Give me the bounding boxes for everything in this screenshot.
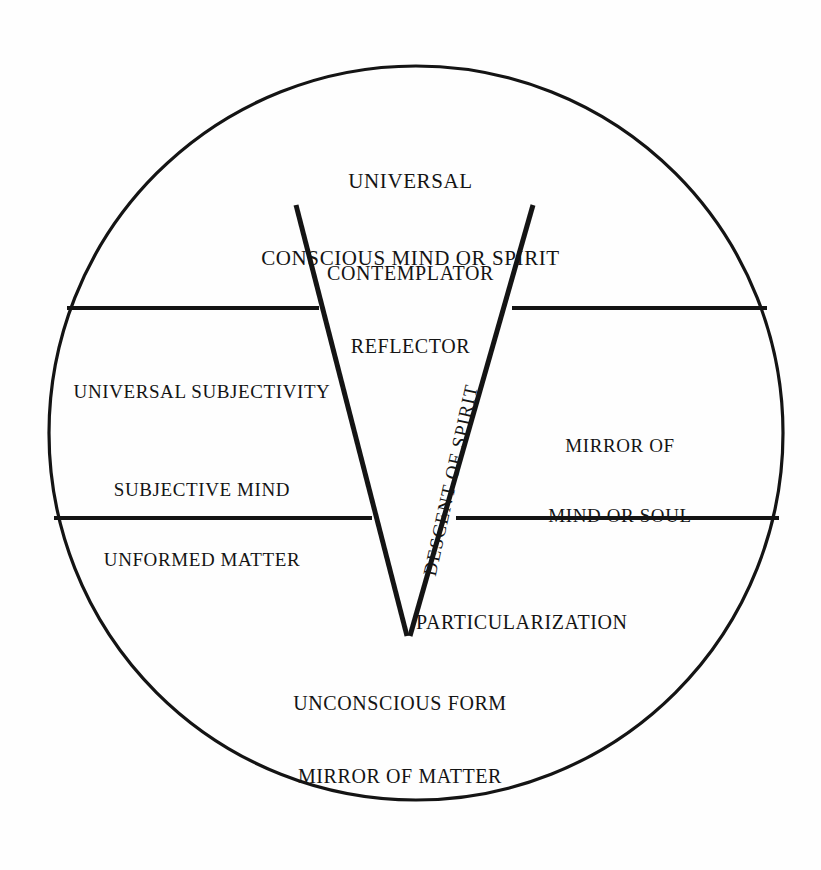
label-unformed-matter-line2: UNFORMED MATTER	[52, 548, 352, 571]
label-universal-subjectivity: UNIVERSAL SUBJECTIVITY	[52, 380, 352, 403]
diagram-canvas: UNIVERSAL CONSCIOUS MIND OR SPIRIT CONTE…	[0, 0, 821, 870]
label-reflector-line2: REFLECTOR	[0, 334, 821, 358]
label-mind-or-soul-line2: MIND OR SOUL	[500, 504, 740, 527]
label-unconscious-form-line1: UNCONSCIOUS FORM	[200, 691, 600, 715]
label-particularization: PARTICULARIZATION	[416, 610, 628, 634]
label-unconscious-form-mirror-of-matter: UNCONSCIOUS FORM MIRROR OF MATTER	[200, 642, 600, 837]
label-subjective-mind-line1: SUBJECTIVE MIND	[52, 478, 352, 501]
label-contemplator-reflector: CONTEMPLATOR REFLECTOR	[0, 212, 821, 407]
label-universal-line1: UNIVERSAL	[0, 169, 821, 195]
label-contemplator-line1: CONTEMPLATOR	[0, 261, 821, 285]
label-mirror-of-matter-line2: MIRROR OF MATTER	[200, 764, 600, 788]
label-subjective-mind-unformed-matter: SUBJECTIVE MIND UNFORMED MATTER	[52, 432, 352, 617]
label-mirror-of-mind-or-soul: MIRROR OF MIND OR SOUL	[500, 388, 740, 573]
label-mirror-of-line1: MIRROR OF	[500, 434, 740, 457]
